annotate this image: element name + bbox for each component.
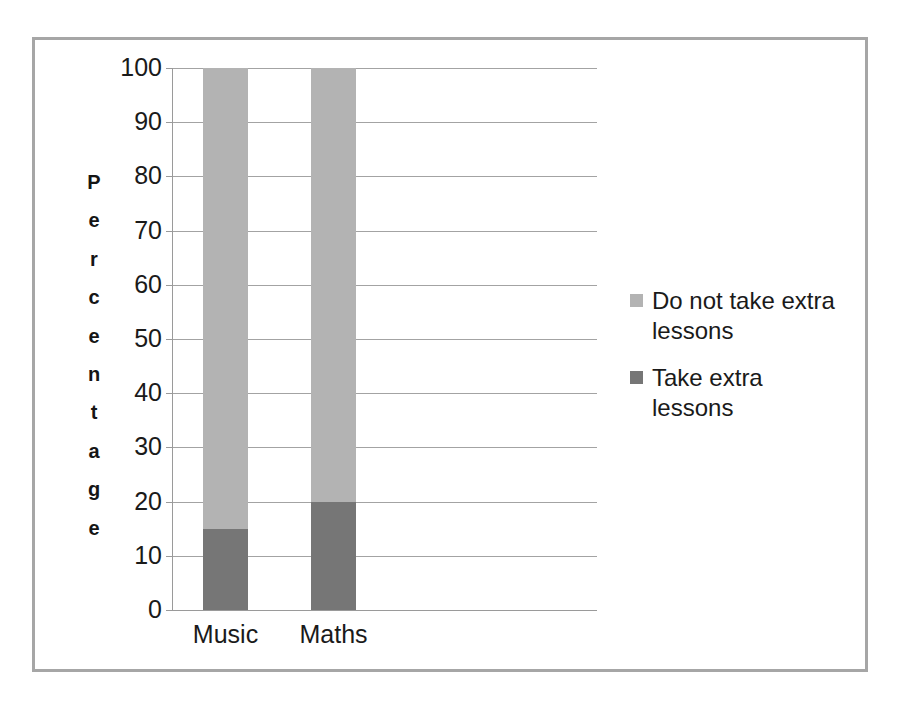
y-axis-title-letter: P: [80, 163, 108, 201]
axis-tick: [166, 231, 173, 232]
bar-music[interactable]: [203, 68, 248, 610]
y-axis-title-letter: e: [80, 509, 108, 547]
chart-legend: Do not take extra lessonsTake extra less…: [630, 286, 865, 440]
y-axis-title-letter: t: [80, 393, 108, 431]
axis-tick: [166, 122, 173, 123]
y-tick-label: 100: [102, 55, 162, 80]
bar-segment[interactable]: [203, 529, 248, 610]
y-tick-label: 50: [102, 326, 162, 351]
y-tick-label: 20: [102, 489, 162, 514]
legend-swatch-icon: [630, 294, 643, 307]
axis-tick: [166, 339, 173, 340]
y-axis-title-letter: e: [80, 201, 108, 239]
legend-swatch-icon: [630, 371, 643, 384]
legend-item[interactable]: Do not take extra lessons: [630, 286, 865, 346]
axis-tick: [166, 393, 173, 394]
y-tick-labels: 1009080706050403020100: [100, 0, 162, 707]
y-axis-title-letter: c: [80, 278, 108, 316]
category-label: Music: [166, 620, 286, 649]
y-tick-label: 70: [102, 218, 162, 243]
bar-segment[interactable]: [203, 68, 248, 529]
y-tick-label: 10: [102, 543, 162, 568]
axis-tick: [166, 502, 173, 503]
y-tick-label: 60: [102, 272, 162, 297]
y-axis-title-letter: a: [80, 432, 108, 470]
legend-label: Take extra lessons: [652, 363, 848, 423]
y-axis-title-letter: n: [80, 355, 108, 393]
y-tick-label: 90: [102, 109, 162, 134]
bar-maths[interactable]: [311, 68, 356, 610]
legend-label: Do not take extra lessons: [652, 286, 848, 346]
gridline: [172, 610, 597, 611]
y-tick-label: 40: [102, 380, 162, 405]
y-axis-title-letter: e: [80, 317, 108, 355]
axis-tick: [166, 68, 173, 69]
axis-tick: [166, 285, 173, 286]
y-tick-label: 30: [102, 434, 162, 459]
category-label: Maths: [274, 620, 394, 649]
y-axis-title: Percentage: [80, 163, 108, 547]
axis-tick: [166, 176, 173, 177]
y-tick-label: 0: [102, 597, 162, 622]
bar-segment[interactable]: [311, 502, 356, 610]
y-tick-label: 80: [102, 163, 162, 188]
chart-screenshot: 1009080706050403020100 Percentage MusicM…: [0, 0, 903, 707]
bar-segment[interactable]: [311, 68, 356, 502]
axis-tick: [166, 556, 173, 557]
axis-tick: [166, 610, 173, 611]
y-axis-title-letter: r: [80, 240, 108, 278]
y-axis-title-letter: g: [80, 470, 108, 508]
legend-item[interactable]: Take extra lessons: [630, 363, 865, 423]
axis-tick: [166, 447, 173, 448]
